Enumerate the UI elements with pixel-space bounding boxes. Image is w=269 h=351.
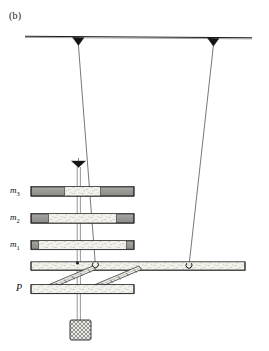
mass-bar-m2-right-end bbox=[117, 214, 134, 223]
mass-bar-m1-left-end bbox=[32, 241, 39, 249]
wire-left-long bbox=[78, 45, 95, 265]
right-suspension-cone bbox=[208, 38, 220, 46]
hatched-test-mass bbox=[70, 320, 91, 340]
platform-label-P: P bbox=[16, 282, 22, 293]
mass-bar-m2-left-end bbox=[32, 214, 49, 223]
left-suspension-cone bbox=[73, 37, 85, 45]
mass-label-m1: m1 bbox=[10, 239, 20, 251]
platform-bar-P bbox=[31, 285, 134, 294]
mass-bar-m2 bbox=[31, 214, 134, 224]
suspension-system-diagram bbox=[0, 0, 269, 351]
suspension-wires bbox=[78, 45, 213, 266]
intermediate-suspension-cone bbox=[72, 158, 86, 168]
panel-label: (b) bbox=[9, 10, 21, 21]
mass-bar-m3-left-end bbox=[32, 187, 65, 196]
mass-label-m3-subscript: 3 bbox=[17, 190, 20, 197]
mass-bar-m3-right-end bbox=[101, 187, 134, 196]
mass-bar-m1 bbox=[31, 241, 134, 250]
mass-bar-m3 bbox=[31, 187, 134, 197]
mass-label-m2-subscript: 2 bbox=[17, 217, 20, 224]
mass-label-m3: m3 bbox=[10, 185, 20, 197]
figure-panel-b: (b) m3 m2 m1 P bbox=[0, 0, 269, 351]
mass-label-m1-subscript: 1 bbox=[17, 244, 20, 251]
wire-right-long bbox=[189, 46, 213, 266]
mass-label-m2: m2 bbox=[10, 212, 20, 224]
attachment-node-center bbox=[76, 262, 79, 265]
mass-bar-m1-right-end bbox=[127, 241, 134, 249]
